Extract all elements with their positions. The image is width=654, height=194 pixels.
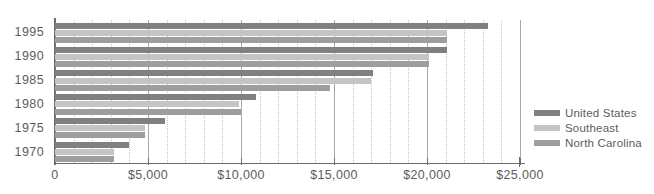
bar — [55, 94, 256, 100]
bar — [55, 109, 241, 115]
bar — [55, 118, 165, 124]
x-axis-tick — [241, 158, 242, 165]
legend-swatch-icon — [534, 110, 560, 116]
x-axis-tick — [334, 158, 335, 165]
bar-chart: 199519901985198019751970 0$5,000$10,000$… — [0, 0, 654, 194]
x-axis-tick-label: $5,000 — [128, 168, 168, 182]
bar-group — [55, 118, 520, 138]
x-axis-tick-label: $20,000 — [403, 168, 450, 182]
gridline-major — [520, 20, 521, 163]
bar — [55, 47, 447, 53]
bar — [55, 23, 488, 29]
y-axis-tick-label: 1990 — [15, 50, 44, 63]
x-axis-tick — [148, 158, 149, 165]
legend-label: United States — [565, 107, 637, 119]
legend-swatch-icon — [534, 140, 560, 146]
bar-group — [55, 70, 520, 90]
legend-item: United States — [534, 106, 652, 120]
x-axis-tick — [520, 158, 521, 165]
legend-item: Southeast — [534, 121, 652, 135]
bar-group — [55, 142, 520, 162]
x-axis-labels: 0$5,000$10,000$15,000$20,000$25,000 — [0, 168, 654, 188]
bar — [55, 142, 129, 148]
x-axis-tick-label: 0 — [51, 168, 58, 182]
y-axis-tick-label: 1995 — [15, 26, 44, 39]
bar-group — [55, 23, 520, 43]
bar-groups — [55, 20, 520, 163]
y-axis-tick-label: 1980 — [15, 98, 44, 111]
bar — [55, 156, 114, 162]
y-axis-tick-label: 1985 — [15, 74, 44, 87]
bar — [55, 37, 447, 43]
x-axis-tick-label: $10,000 — [217, 168, 264, 182]
bar — [55, 61, 429, 67]
plot-area — [55, 20, 520, 163]
bar — [55, 54, 429, 60]
x-axis-tick-label: $25,000 — [496, 168, 543, 182]
chart-legend: United StatesSoutheastNorth Carolina — [534, 106, 652, 151]
legend-item: North Carolina — [534, 136, 652, 150]
legend-label: North Carolina — [565, 137, 642, 149]
y-axis-labels: 199519901985198019751970 — [0, 20, 50, 163]
bar — [55, 85, 330, 91]
y-axis-tick-label: 1970 — [15, 146, 44, 159]
bar — [55, 30, 447, 36]
bar-group — [55, 47, 520, 67]
bar — [55, 125, 145, 131]
legend-swatch-icon — [534, 125, 560, 131]
legend-label: Southeast — [565, 122, 619, 134]
y-axis-tick-label: 1975 — [15, 122, 44, 135]
bar — [55, 78, 371, 84]
bar — [55, 149, 114, 155]
bar-group — [55, 94, 520, 114]
bar — [55, 101, 239, 107]
x-axis-tick — [427, 158, 428, 165]
x-axis-tick-label: $15,000 — [310, 168, 357, 182]
bar — [55, 132, 145, 138]
bar — [55, 70, 373, 76]
x-axis-line — [55, 163, 525, 164]
